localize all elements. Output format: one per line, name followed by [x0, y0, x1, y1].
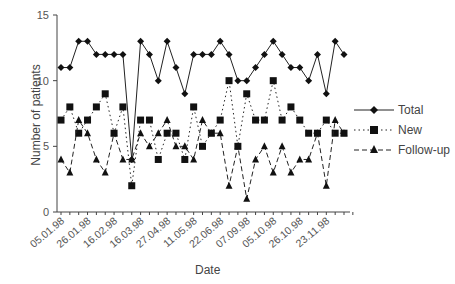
square-marker	[93, 103, 100, 110]
triangle-marker	[279, 142, 286, 149]
square-marker	[190, 103, 197, 110]
diamond-marker	[58, 64, 65, 71]
square-marker	[66, 103, 73, 110]
square-marker	[199, 143, 206, 150]
y-tick-label: 15	[37, 9, 49, 21]
legend-item-new: New	[354, 120, 450, 140]
square-marker	[137, 117, 144, 124]
diamond-marker	[305, 77, 312, 84]
diamond-marker	[217, 38, 224, 45]
diamond-marker	[208, 51, 215, 58]
square-marker	[279, 117, 286, 124]
square-marker	[243, 90, 250, 97]
diamond-marker	[314, 51, 321, 58]
y-tick-label: 0	[43, 206, 49, 218]
square-marker	[270, 77, 277, 84]
square-marker	[58, 117, 65, 124]
y-axis-label: Number of patients	[29, 45, 43, 185]
square-marker	[84, 117, 91, 124]
diamond-marker	[332, 38, 339, 45]
triangle-marker	[323, 182, 330, 189]
diamond-marker	[102, 51, 109, 58]
diamond-marker	[93, 51, 100, 58]
solid-diamond-line-icon	[354, 105, 394, 115]
square-marker	[146, 117, 153, 124]
diamond-marker	[75, 38, 82, 45]
diamond-marker	[199, 51, 206, 58]
diamond-marker	[270, 38, 277, 45]
square-marker	[102, 90, 109, 97]
triangle-marker	[270, 169, 277, 176]
triangle-marker	[226, 182, 233, 189]
diamond-marker	[66, 64, 73, 71]
square-marker	[128, 182, 135, 189]
legend-item-follow-up: Follow-up	[354, 140, 450, 160]
triangle-marker	[119, 155, 126, 162]
diamond-marker	[172, 64, 179, 71]
square-marker	[119, 103, 126, 110]
diamond-marker	[261, 51, 268, 58]
dashed-triangle-line-icon	[354, 145, 394, 155]
diamond-marker	[252, 64, 259, 71]
diamond-marker	[164, 38, 171, 45]
diamond-marker	[296, 64, 303, 71]
square-marker	[155, 156, 162, 163]
triangle-marker	[332, 116, 339, 123]
diamond-marker	[146, 51, 153, 58]
square-marker	[181, 156, 188, 163]
diamond-marker	[137, 38, 144, 45]
diamond-marker	[181, 90, 188, 97]
triangle-marker	[137, 129, 144, 136]
square-marker	[164, 130, 171, 137]
legend: Total New Follow-up	[354, 100, 450, 160]
diamond-marker	[84, 38, 91, 45]
triangle-marker	[296, 155, 303, 162]
diamond-marker	[119, 51, 126, 58]
y-tick-label: 5	[43, 140, 49, 152]
legend-label: New	[398, 123, 422, 137]
triangle-marker	[58, 155, 65, 162]
triangle-marker	[261, 142, 268, 149]
diamond-marker	[341, 51, 348, 58]
square-marker	[296, 117, 303, 124]
legend-item-total: Total	[354, 100, 450, 120]
triangle-marker	[93, 155, 100, 162]
diamond-marker	[279, 51, 286, 58]
triangle-marker	[172, 142, 179, 149]
square-marker	[217, 117, 224, 124]
triangle-marker	[164, 116, 171, 123]
square-marker	[287, 103, 294, 110]
dotted-square-line-icon	[354, 125, 394, 135]
legend-label: Follow-up	[398, 143, 450, 157]
triangle-marker	[75, 116, 82, 123]
diamond-marker	[155, 77, 162, 84]
square-marker	[226, 77, 233, 84]
legend-label: Total	[398, 103, 423, 117]
square-marker	[305, 130, 312, 137]
x-axis-label: Date	[195, 263, 220, 277]
triangle-marker	[252, 155, 259, 162]
diamond-marker	[190, 51, 197, 58]
triangle-marker	[243, 195, 250, 202]
diamond-marker	[323, 90, 330, 97]
diamond-marker	[111, 51, 118, 58]
square-marker	[252, 117, 259, 124]
diamond-marker	[234, 77, 241, 84]
series-line-total	[61, 41, 344, 159]
diamond-marker	[287, 64, 294, 71]
diamond-marker	[226, 51, 233, 58]
square-marker	[261, 117, 268, 124]
square-marker	[75, 130, 82, 137]
square-marker	[172, 130, 179, 137]
square-marker	[323, 117, 330, 124]
diamond-marker	[243, 77, 250, 84]
triangle-marker	[199, 116, 206, 123]
